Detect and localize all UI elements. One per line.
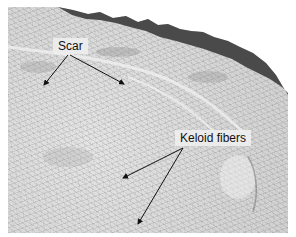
micrograph-image	[8, 7, 288, 233]
histology-figure: Scar Keloid fibers	[0, 0, 296, 237]
label-keloid-fibers: Keloid fibers	[175, 130, 251, 146]
label-scar: Scar	[53, 38, 88, 54]
tissue-texture	[8, 7, 288, 233]
